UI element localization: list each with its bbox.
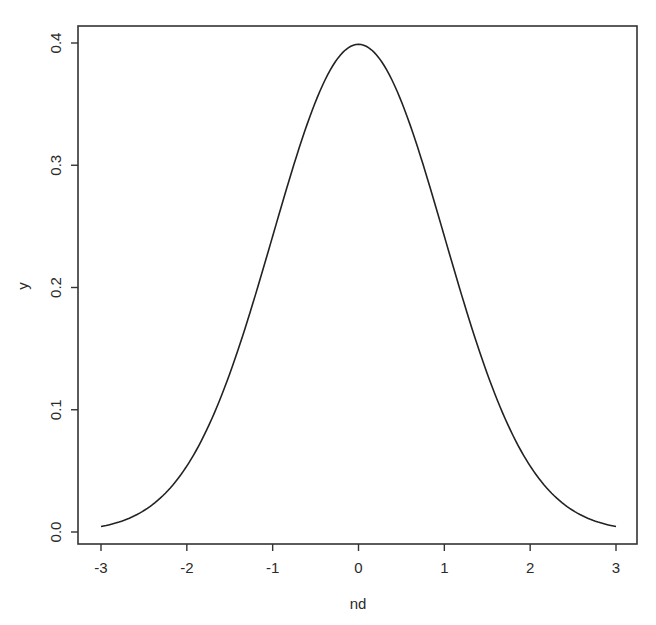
x-tick-label: -2 — [180, 559, 193, 576]
density-curve — [101, 44, 616, 526]
plot-frame — [78, 26, 637, 544]
y-axis: 0.00.10.20.30.4 — [47, 33, 78, 543]
x-axis: -3-2-10123 — [94, 544, 620, 576]
chart: -3-2-10123 0.00.10.20.30.4 nd y — [0, 0, 656, 625]
x-tick-label: 1 — [440, 559, 448, 576]
x-tick-label: 0 — [354, 559, 362, 576]
x-tick-label: 2 — [526, 559, 534, 576]
y-tick-label: 0.3 — [47, 155, 64, 176]
x-axis-label: nd — [350, 595, 367, 612]
y-tick-label: 0.2 — [47, 277, 64, 298]
x-tick-label: -1 — [266, 559, 279, 576]
y-tick-label: 0.0 — [47, 522, 64, 543]
y-tick-label: 0.1 — [47, 399, 64, 420]
x-tick-label: -3 — [94, 559, 107, 576]
y-axis-label: y — [14, 282, 31, 290]
x-tick-label: 3 — [612, 559, 620, 576]
y-tick-label: 0.4 — [47, 33, 64, 54]
